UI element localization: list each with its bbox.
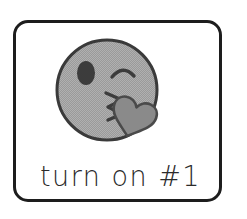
- caption-row: turn on #1: [16, 151, 225, 199]
- face-blowing-a-kiss-icon: [52, 35, 164, 147]
- flashcard-root: turn on #1: [0, 0, 247, 219]
- emoji-illustration-area: [16, 23, 225, 151]
- emoji-left-eye-icon: [77, 61, 95, 85]
- card-caption: turn on #1: [40, 161, 201, 190]
- card-frame: turn on #1: [13, 20, 222, 202]
